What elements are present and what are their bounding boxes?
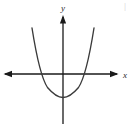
plot-background xyxy=(0,0,130,124)
graph-canvas: y x | xyxy=(0,0,130,124)
x-axis-label: x xyxy=(122,70,127,80)
edge-artifact-mark: | xyxy=(124,2,126,11)
y-axis-label: y xyxy=(60,3,65,13)
parabola-figure: y x | xyxy=(0,0,130,124)
